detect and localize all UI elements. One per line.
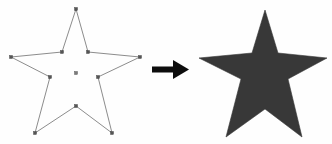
diagram-canvas: Star shape transformation Star outline w…	[0, 0, 332, 144]
arrow-shaft	[152, 67, 175, 73]
vertex-handle-inner-lower-right[interactable]	[97, 76, 100, 79]
vertex-handle-outer-top[interactable]	[75, 8, 78, 11]
transform-arrow-icon	[152, 60, 189, 79]
vertex-handle-outer-left[interactable]	[10, 56, 13, 59]
diagram-svg	[0, 0, 332, 144]
vertex-handle-inner-lower-left[interactable]	[49, 76, 52, 79]
vertex-handle-inner-upper-left[interactable]	[61, 51, 64, 54]
vertex-handle-outer-right[interactable]	[139, 56, 142, 59]
arrow-head	[173, 60, 189, 79]
vertex-handle-group[interactable]	[10, 8, 142, 135]
filled-star-shape[interactable]	[199, 10, 327, 137]
outline-star-group[interactable]	[11, 9, 140, 133]
shape-center-handle[interactable]	[75, 72, 78, 75]
filled-star-group[interactable]	[199, 10, 327, 137]
vertex-handle-outer-bottom-right[interactable]	[111, 132, 114, 135]
vertex-handle-inner-upper-right[interactable]	[87, 51, 90, 54]
outline-star-shape[interactable]	[11, 9, 140, 133]
vertex-handle-inner-bottom[interactable]	[75, 105, 78, 108]
vertex-handle-outer-bottom-left[interactable]	[34, 132, 37, 135]
